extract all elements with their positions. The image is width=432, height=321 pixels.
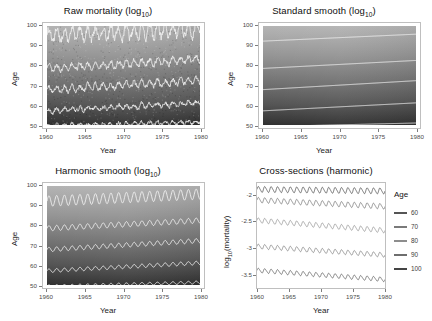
legend-item-age-90[interactable]: 90 bbox=[394, 250, 432, 260]
y-tick-label: 60 bbox=[16, 102, 37, 109]
y-tick-mark bbox=[255, 45, 258, 46]
y-tick-label: -3.5 bbox=[230, 271, 252, 278]
x-tick-mark bbox=[321, 289, 322, 292]
y-tick-mark bbox=[255, 126, 258, 127]
heatmap-standard bbox=[259, 23, 420, 128]
legend-color-key bbox=[394, 254, 407, 256]
heatmap-raw bbox=[43, 23, 204, 128]
y-tick-mark bbox=[253, 248, 256, 249]
plot-area-harmonic bbox=[42, 182, 205, 289]
y-tick-label: 80 bbox=[232, 61, 253, 68]
y-tick-mark bbox=[253, 275, 256, 276]
y-tick-label: 100 bbox=[16, 181, 37, 188]
legend-item-label: 70 bbox=[411, 222, 418, 232]
panel-standard-smooth: Standard smooth (log10) Age Year 5060708… bbox=[216, 0, 432, 160]
plot-area-standard bbox=[258, 22, 421, 129]
y-tick-label: 50 bbox=[16, 122, 37, 129]
x-tick-label: 1975 bbox=[364, 133, 392, 140]
x-axis-title-standard: Year bbox=[216, 146, 432, 155]
y-tick-mark bbox=[39, 45, 42, 46]
x-tick-label: 1960 bbox=[32, 293, 60, 300]
legend-item-age-70[interactable]: 70 bbox=[394, 222, 432, 232]
y-tick-label: 50 bbox=[16, 282, 37, 289]
cross-section-line bbox=[257, 218, 385, 233]
y-tick-label: 100 bbox=[232, 21, 253, 28]
y-tick-label: 70 bbox=[232, 82, 253, 89]
y-tick-mark bbox=[39, 286, 42, 287]
y-tick-label: 80 bbox=[16, 61, 37, 68]
x-tick-mark bbox=[162, 129, 163, 132]
x-tick-label: 1970 bbox=[326, 133, 354, 140]
legend-item-label: 90 bbox=[411, 250, 418, 260]
x-tick-mark bbox=[46, 289, 47, 292]
panel-harmonic-smooth: Harmonic smooth (log10) Age Year 5060708… bbox=[0, 160, 216, 320]
y-tick-label: 90 bbox=[16, 41, 37, 48]
y-tick-label: 60 bbox=[16, 262, 37, 269]
legend-item-age-60[interactable]: 60 bbox=[394, 208, 432, 218]
x-tick-mark bbox=[353, 289, 354, 292]
legend-title: Age bbox=[394, 190, 408, 199]
y-tick-mark bbox=[39, 106, 42, 107]
x-axis-title-harmonic: Year bbox=[0, 306, 216, 315]
legend-color-key bbox=[394, 212, 407, 214]
y-tick-mark bbox=[39, 266, 42, 267]
x-tick-label: 1975 bbox=[148, 133, 176, 140]
x-tick-label: 1970 bbox=[307, 293, 335, 300]
y-tick-label: 70 bbox=[16, 82, 37, 89]
x-tick-mark bbox=[257, 289, 258, 292]
legend-item-label: 80 bbox=[411, 236, 418, 246]
panel-cross-title: Cross-sections (harmonic) bbox=[208, 165, 424, 176]
plot-area-cross bbox=[256, 182, 386, 289]
y-tick-mark bbox=[39, 205, 42, 206]
cross-section-line bbox=[257, 186, 385, 193]
y-tick-mark bbox=[39, 225, 42, 226]
y-tick-mark bbox=[39, 246, 42, 247]
heatmap-harmonic bbox=[43, 183, 204, 288]
y-tick-label: -3 bbox=[230, 244, 252, 251]
x-tick-mark bbox=[124, 129, 125, 132]
x-tick-label: 1970 bbox=[110, 293, 138, 300]
x-tick-mark bbox=[340, 129, 341, 132]
y-tick-label: 70 bbox=[16, 242, 37, 249]
x-tick-label: 1980 bbox=[187, 293, 215, 300]
y-tick-mark bbox=[39, 65, 42, 66]
legend-item-age-100[interactable]: 100 bbox=[394, 264, 432, 274]
y-tick-mark bbox=[255, 86, 258, 87]
plot-area-raw bbox=[42, 22, 205, 129]
x-tick-label: 1965 bbox=[287, 133, 315, 140]
legend-color-key bbox=[394, 240, 407, 242]
x-tick-mark bbox=[85, 129, 86, 132]
x-tick-label: 1960 bbox=[248, 133, 276, 140]
x-axis-title-raw: Year bbox=[0, 146, 216, 155]
figure-root: Raw mortality (log10) Age Year 506070809… bbox=[0, 0, 432, 321]
panel-standard-title: Standard smooth (log10) bbox=[216, 5, 432, 18]
panel-harmonic-title: Harmonic smooth (log10) bbox=[0, 165, 216, 178]
x-tick-label: 1965 bbox=[71, 293, 99, 300]
y-tick-mark bbox=[39, 25, 42, 26]
x-tick-mark bbox=[46, 129, 47, 132]
y-tick-mark bbox=[255, 25, 258, 26]
y-tick-mark bbox=[253, 195, 256, 196]
x-tick-label: 1965 bbox=[71, 133, 99, 140]
legend-item-label: 60 bbox=[411, 208, 418, 218]
x-tick-mark bbox=[417, 129, 418, 132]
y-tick-label: 90 bbox=[232, 41, 253, 48]
x-tick-label: 1975 bbox=[148, 293, 176, 300]
panel-raw-mortality: Raw mortality (log10) Age Year 506070809… bbox=[0, 0, 216, 160]
x-tick-label: 1975 bbox=[339, 293, 367, 300]
legend-color-key bbox=[394, 226, 407, 228]
y-tick-label: 80 bbox=[16, 221, 37, 228]
y-tick-mark bbox=[253, 221, 256, 222]
panel-cross-sections: Cross-sections (harmonic) log10(mortalit… bbox=[216, 160, 432, 320]
legend-item-age-80[interactable]: 80 bbox=[394, 236, 432, 246]
cross-section-line bbox=[257, 244, 385, 257]
panel-raw-title: Raw mortality (log10) bbox=[0, 5, 216, 18]
y-tick-label: 60 bbox=[232, 102, 253, 109]
y-tick-label: 100 bbox=[16, 21, 37, 28]
legend-color-key bbox=[394, 268, 407, 270]
x-tick-label: 1980 bbox=[371, 293, 399, 300]
x-tick-mark bbox=[201, 129, 202, 132]
y-tick-label: 90 bbox=[16, 201, 37, 208]
legend-age: Age 60708090100 bbox=[394, 190, 432, 280]
x-tick-label: 1980 bbox=[187, 133, 215, 140]
